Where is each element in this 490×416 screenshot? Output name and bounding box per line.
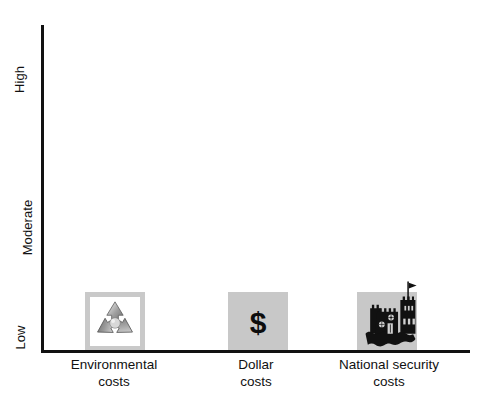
x-axis-label-environmental-costs-line2: costs [34, 373, 194, 390]
bar-group-national-security-costs [317, 25, 457, 350]
x-axis-label-national-security-costs-line2: costs [309, 373, 469, 390]
y-axis-tick-high: High [0, 72, 40, 87]
fortress-castle-icon [355, 278, 419, 350]
bar-chart: High Moderate Low [0, 0, 490, 416]
y-axis-tick-moderate: Moderate [0, 220, 40, 235]
recycling-symbol-icon [90, 298, 140, 346]
y-axis-tick-low-label: Low [13, 325, 28, 349]
plot-area: $ [44, 25, 470, 350]
y-axis-tick-low: Low [0, 330, 40, 345]
bar-environmental-costs [85, 292, 145, 350]
y-axis-tick-moderate-label: Moderate [20, 200, 35, 256]
bar-group-environmental-costs [45, 25, 185, 350]
x-axis-label-national-security-costs: National security costs [309, 356, 469, 390]
bar-national-security-costs [357, 292, 417, 350]
y-axis-tick-high-label: High [12, 66, 27, 93]
dollar-sign-icon: $ [228, 304, 288, 342]
x-axis-label-environmental-costs-line1: Environmental [71, 357, 157, 372]
x-axis-label-environmental-costs: Environmental costs [34, 356, 194, 390]
bar-dollar-costs: $ [228, 292, 288, 350]
x-axis-label-dollar-costs-line1: Dollar [238, 357, 273, 372]
x-axis-line [41, 350, 470, 353]
bar-group-dollar-costs: $ [188, 25, 328, 350]
x-axis-label-national-security-costs-line1: National security [339, 357, 439, 372]
